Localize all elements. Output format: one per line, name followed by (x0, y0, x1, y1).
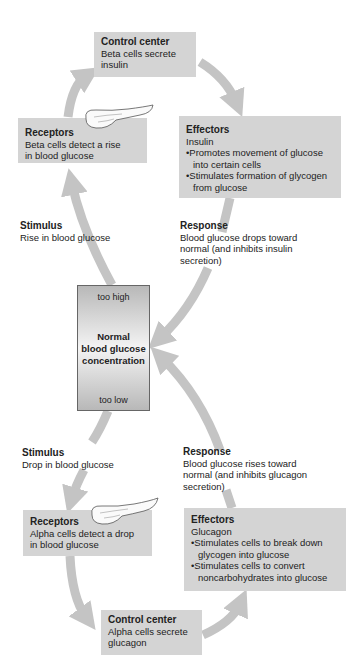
response-top: Response Blood glucose drops toward norm… (180, 220, 297, 266)
stimulus-top-title: Stimulus (20, 220, 110, 232)
pancreas-icon (88, 497, 160, 527)
normal-glucose-label: Normal blood glucose concentration (78, 331, 149, 367)
control-center-top: Control center Beta cells secrete insuli… (94, 32, 196, 77)
control-center-bottom-line: Alpha cells secrete (108, 626, 195, 638)
effectors-bottom-title: Effectors (191, 514, 339, 526)
control-center-top-line: Beta cells secrete (101, 48, 189, 60)
response-bottom-line: normal (and inhibits glucagon (183, 469, 307, 481)
arrow-to-effectors-bottom (203, 604, 240, 635)
effectors-top-bullet: Promotes movement of glucose into certai… (186, 147, 334, 170)
response-top-line: secretion) (180, 255, 297, 267)
stimulus-top: Stimulus Rise in blood glucose (20, 220, 110, 243)
stimulus-bottom: Stimulus Drop in blood glucose (22, 447, 114, 470)
control-center-bottom-title: Control center (108, 614, 195, 626)
response-top-line: Blood glucose drops toward (180, 232, 297, 244)
normal-line: blood glucose (78, 343, 149, 355)
response-bottom-title: Response (183, 446, 307, 458)
effectors-bottom-bullet: Stimulates cells to break down glycogen … (191, 537, 339, 560)
effectors-top-title: Effectors (186, 124, 334, 136)
effectors-bottom: Effectors Glucagon Stimulates cells to b… (184, 508, 346, 591)
effectors-top-bullet: Stimulates formation of glycogen from gl… (186, 170, 334, 193)
effectors-bottom-list: Stimulates cells to break down glycogen … (191, 537, 339, 583)
control-center-bottom: Control center Alpha cells secrete gluca… (101, 610, 202, 655)
receptors-top-line: in blood glucose (25, 150, 140, 162)
receptors-top-line: Beta cells detect a rise (25, 139, 140, 151)
response-bottom-line: Blood glucose rises toward (183, 458, 307, 470)
normal-glucose-box: too high Normal blood glucose concentrat… (77, 285, 150, 411)
control-center-top-line: insulin (101, 59, 189, 71)
control-center-bottom-line: glucagon (108, 637, 195, 649)
response-top-title: Response (180, 220, 297, 232)
too-low-label: too low (78, 395, 149, 405)
normal-line: Normal (78, 331, 149, 343)
effectors-top-hormone: Insulin (186, 136, 334, 148)
response-bottom: Response Blood glucose rises toward norm… (183, 446, 307, 492)
effectors-top: Effectors Insulin Promotes movement of g… (179, 116, 341, 198)
receptors-bottom-line: Alpha cells detect a drop (30, 528, 145, 540)
arrow-to-control-bottom (70, 556, 86, 617)
stimulus-bottom-title: Stimulus (22, 447, 114, 459)
effectors-bottom-bullet: Stimulates cells to convert noncarbohydr… (191, 560, 339, 583)
stimulus-bottom-text: Drop in blood glucose (22, 459, 114, 471)
arrow-to-effectors-top (200, 62, 236, 102)
pancreas-icon (82, 103, 156, 131)
receptors-bottom-line: in blood glucose (30, 539, 145, 551)
arrow-response-drop (160, 198, 230, 338)
effectors-top-list: Promotes movement of glucose into certai… (186, 147, 334, 193)
effectors-bottom-hormone: Glucagon (191, 526, 339, 538)
response-top-line: normal (and inhibits insulin (180, 243, 297, 255)
control-center-top-title: Control center (101, 36, 189, 48)
normal-line: concentration (78, 355, 149, 367)
too-high-label: too high (78, 292, 149, 302)
stimulus-top-text: Rise in blood glucose (20, 232, 110, 244)
response-bottom-line: secretion) (183, 481, 307, 493)
